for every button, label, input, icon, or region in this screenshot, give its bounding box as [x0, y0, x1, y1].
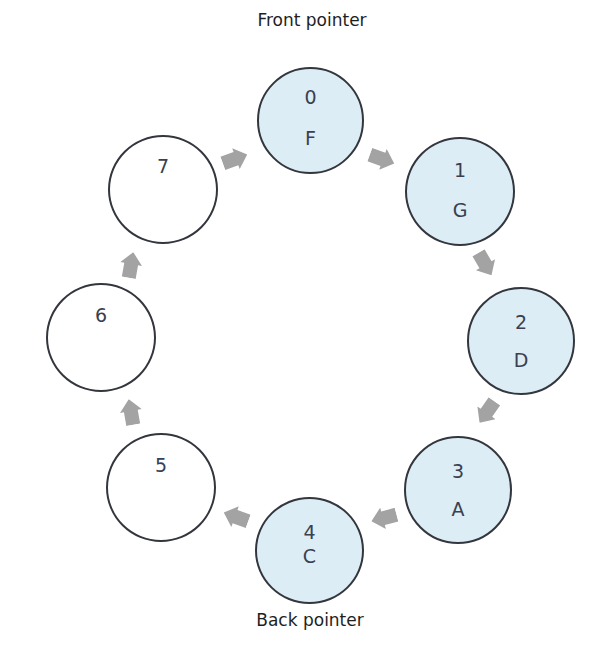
arrow-icon-0-to-1	[366, 144, 398, 174]
arrow-icon-6-to-7	[118, 250, 144, 279]
slot-index: 5	[108, 454, 214, 476]
queue-slot-7: 7	[108, 135, 218, 244]
queue-slot-6: 6	[46, 283, 156, 392]
slot-index: 1	[407, 159, 513, 181]
arrow-icon-1-to-2	[469, 247, 501, 281]
slot-value: G	[407, 199, 513, 221]
slot-index: 4	[257, 521, 362, 543]
slot-index: 0	[259, 86, 362, 108]
slot-value: F	[259, 127, 362, 149]
slot-index: 2	[469, 311, 573, 333]
slot-index: 3	[406, 460, 510, 482]
queue-slot-5: 5	[106, 433, 216, 542]
queue-slot-0: 0 F	[257, 67, 364, 174]
circular-queue-diagram: Front pointer 0 F 1 G 2 D 3 A 4 C 5 6 7	[0, 0, 607, 665]
slot-index: 6	[48, 304, 154, 326]
arrow-icon-3-to-4	[369, 504, 400, 532]
queue-slot-4: 4 C	[255, 497, 364, 604]
queue-slot-3: 3 A	[404, 436, 512, 544]
slot-index: 7	[110, 155, 216, 177]
arrow-icon-5-to-6	[118, 397, 144, 426]
back-pointer-label: Back pointer	[256, 610, 363, 630]
arrow-icon-2-to-3	[471, 395, 504, 429]
arrow-icon-7-to-0	[219, 144, 251, 174]
queue-slot-2: 2 D	[467, 287, 575, 395]
arrow-icon-4-to-5	[220, 502, 252, 532]
slot-value: D	[469, 349, 573, 371]
queue-slot-1: 1 G	[405, 137, 515, 246]
front-pointer-label: Front pointer	[257, 10, 366, 30]
slot-value: A	[406, 498, 510, 520]
slot-value: C	[257, 545, 362, 567]
